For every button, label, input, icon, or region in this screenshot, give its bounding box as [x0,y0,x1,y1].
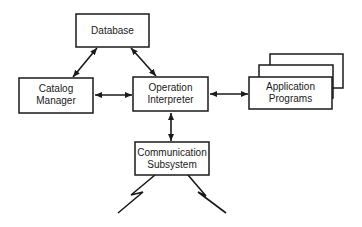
node-catalog-manager-label-line1: Catalog [39,83,73,94]
node-database: Database [76,14,149,47]
node-communication-subsystem-label-line2: Subsystem [147,159,196,170]
edge-database-catalog-manager [73,48,97,77]
edge-database-operation-interpreter [131,48,156,76]
node-operation-interpreter: Operation Interpreter [133,77,208,111]
node-application-programs: Application Programs [249,54,343,109]
node-communication-subsystem: Communication Subsystem [135,142,209,175]
lightning-link-icon-left [118,175,155,213]
node-catalog-manager: Catalog Manager [19,78,93,113]
architecture-diagram: Database Catalog Manager Operation Inter… [0,0,362,227]
node-operation-interpreter-label-line2: Interpreter [147,94,194,105]
node-database-label: Database [91,25,134,36]
node-application-programs-label-line2: Programs [269,93,312,104]
node-application-programs-label-line1: Application [266,81,315,92]
node-operation-interpreter-label-line1: Operation [149,82,193,93]
node-catalog-manager-label-line2: Manager [36,95,76,106]
lightning-link-icon-right [188,175,226,213]
node-communication-subsystem-label-line1: Communication [137,147,206,158]
